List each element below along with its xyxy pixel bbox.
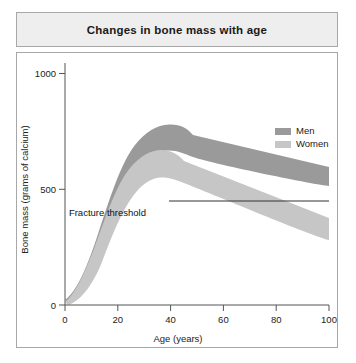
x-axis-tick-labels: 0 20 40 60 80 100 xyxy=(62,314,337,325)
x-tick-label: 40 xyxy=(165,314,176,325)
y-tick-label: 500 xyxy=(40,184,56,195)
legend-swatch-women xyxy=(275,141,291,148)
x-tick-label: 60 xyxy=(218,314,229,325)
legend-label-men: Men xyxy=(296,126,314,136)
chart-plot-frame: Fracture threshold 1000 500 0 xyxy=(16,52,338,348)
y-tick-label: 1000 xyxy=(35,68,56,79)
y-axis-title: Bone mass (grams of calcium) xyxy=(19,80,30,300)
chart-legend: Men Women xyxy=(275,126,329,149)
legend-item-women: Women xyxy=(275,139,329,149)
x-tick-label: 80 xyxy=(271,314,282,325)
x-tick-label: 0 xyxy=(62,314,67,325)
x-tick-label: 100 xyxy=(321,314,337,325)
bone-mass-figure: Changes in bone mass with age Fracture t… xyxy=(0,0,356,363)
y-axis-ticks xyxy=(59,74,65,306)
page-title: Changes in bone mass with age xyxy=(87,24,267,36)
chart-title-box: Changes in bone mass with age xyxy=(16,12,338,47)
x-axis-ticks xyxy=(65,305,329,311)
y-axis-tick-labels: 1000 500 0 xyxy=(35,68,56,311)
fracture-threshold-label: Fracture threshold xyxy=(69,207,146,218)
legend-label-women: Women xyxy=(296,139,329,149)
legend-swatch-men xyxy=(275,128,291,135)
x-axis-title: Age (years) xyxy=(0,333,356,344)
x-tick-label: 20 xyxy=(113,314,124,325)
y-tick-label: 0 xyxy=(51,300,56,311)
legend-item-men: Men xyxy=(275,126,329,136)
bone-mass-chart: Fracture threshold 1000 500 0 xyxy=(17,53,337,347)
